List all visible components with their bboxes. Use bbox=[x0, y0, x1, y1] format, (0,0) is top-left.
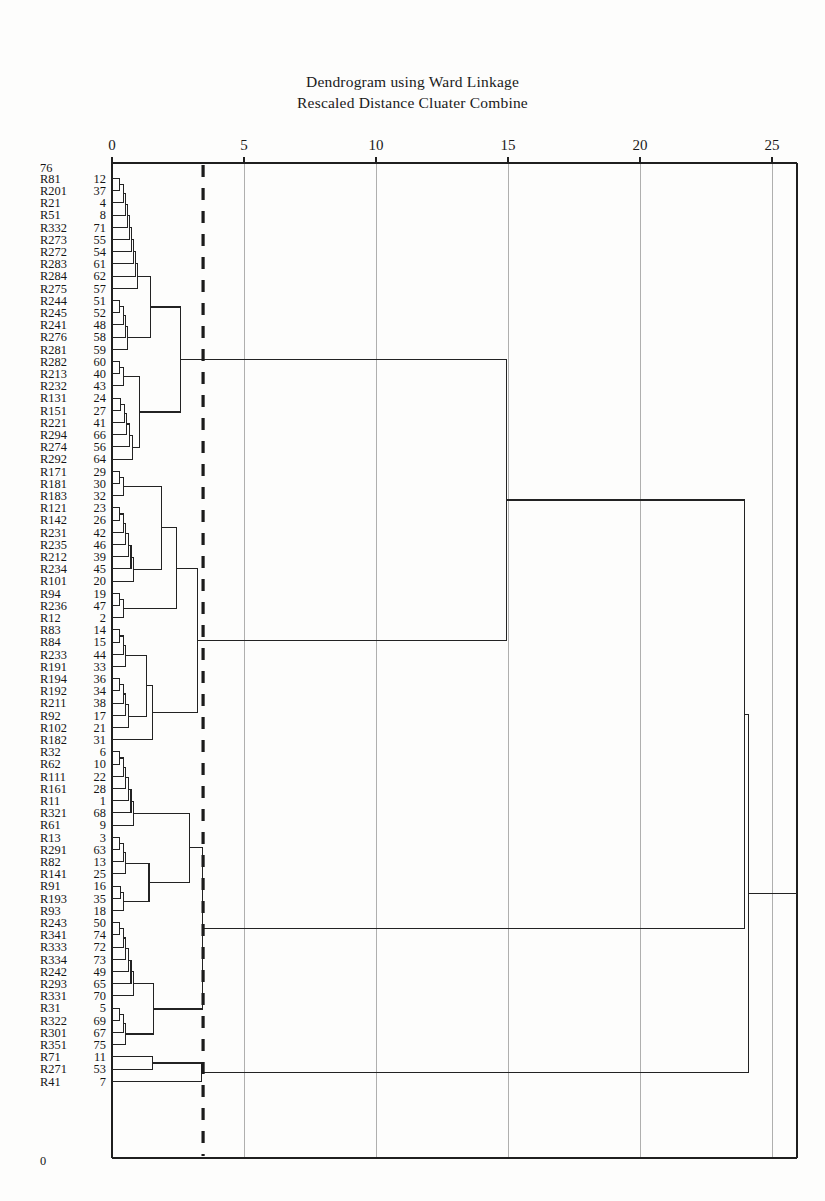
x-tick-label: 10 bbox=[369, 137, 384, 153]
dendrogram-link bbox=[112, 1008, 120, 1020]
dendrogram-link bbox=[112, 599, 124, 617]
dendrogram-link bbox=[112, 645, 126, 666]
x-tick-label: 15 bbox=[501, 137, 516, 153]
leaf-labels: R8112R20137R214R518R33271R27355R27254R28… bbox=[40, 172, 106, 1089]
dendrogram-link bbox=[153, 568, 198, 713]
dendrogram-link bbox=[112, 1063, 202, 1081]
dendrogram-link bbox=[112, 404, 124, 422]
dendrogram-plot: R8112R20137R214R518R33271R27355R27254R28… bbox=[0, 0, 825, 1201]
dendrogram-link bbox=[112, 398, 120, 410]
dendrogram-link bbox=[202, 500, 744, 928]
dendrogram-link bbox=[112, 593, 120, 605]
x-tick-label: 0 bbox=[108, 137, 116, 153]
dendrogram-link bbox=[112, 1023, 126, 1044]
dendrogram-link bbox=[112, 368, 124, 386]
dendrogram-link bbox=[112, 752, 120, 764]
dendrogram-link bbox=[112, 301, 120, 313]
dendrogram-page: Dendrogram using Ward Linkage Rescaled D… bbox=[0, 0, 825, 1201]
dendrogram-link bbox=[112, 886, 120, 898]
dendrogram-link bbox=[112, 362, 120, 374]
dendrogram-link bbox=[112, 508, 120, 520]
dendrogram-link bbox=[112, 630, 120, 642]
dendrogram-link bbox=[112, 929, 123, 947]
dendrogram-link bbox=[112, 694, 126, 715]
dendrogram-link bbox=[112, 938, 126, 959]
dendrogram-link bbox=[112, 1014, 123, 1032]
x-tick-label: 25 bbox=[765, 137, 780, 153]
dendrogram-link bbox=[112, 471, 120, 483]
corner-label-top: 76 bbox=[40, 161, 52, 175]
dendrogram-link bbox=[112, 307, 123, 325]
dendrogram-link bbox=[112, 477, 123, 495]
dendrogram-link bbox=[112, 185, 123, 203]
dendrogram-link bbox=[112, 892, 124, 910]
dendrogram-link bbox=[112, 179, 120, 191]
corner-label-bottom: 0 bbox=[40, 1154, 46, 1168]
grid-lines bbox=[244, 163, 772, 1158]
dendrogram-link bbox=[181, 360, 507, 641]
dendrogram-link bbox=[112, 679, 120, 691]
dendrogram-link bbox=[112, 758, 123, 776]
leaf-label-number: 7 bbox=[100, 1075, 106, 1089]
dendrogram-link bbox=[112, 767, 126, 788]
axis-tick-labels: 0510152025 bbox=[108, 137, 779, 153]
dendrogram-link bbox=[112, 1057, 153, 1069]
dendrogram-link bbox=[140, 307, 181, 412]
dendrogram-link bbox=[112, 514, 123, 532]
axis-frame bbox=[112, 163, 797, 1158]
x-tick-label: 20 bbox=[633, 137, 648, 153]
dendrogram-link bbox=[124, 863, 149, 901]
dendrogram-link bbox=[154, 848, 203, 1009]
dendrogram-link bbox=[112, 837, 120, 849]
dendrogram-link bbox=[112, 843, 123, 861]
x-tick-label: 5 bbox=[240, 137, 248, 153]
dendrogram-link bbox=[134, 813, 190, 882]
dendrogram-link bbox=[126, 984, 154, 1034]
dendrogram-link bbox=[112, 923, 120, 935]
dendrogram-link bbox=[202, 714, 748, 1072]
dendrogram-link bbox=[112, 636, 123, 654]
dendrogram-links bbox=[112, 179, 797, 1082]
dendrogram-link bbox=[112, 523, 126, 544]
dendrogram-link bbox=[112, 685, 123, 703]
dendrogram-link bbox=[124, 528, 177, 609]
dendrogram-link bbox=[112, 853, 126, 874]
axis-ticks bbox=[112, 157, 772, 163]
leaf-label-name: R41 bbox=[40, 1075, 61, 1089]
dendrogram-link bbox=[128, 276, 150, 338]
